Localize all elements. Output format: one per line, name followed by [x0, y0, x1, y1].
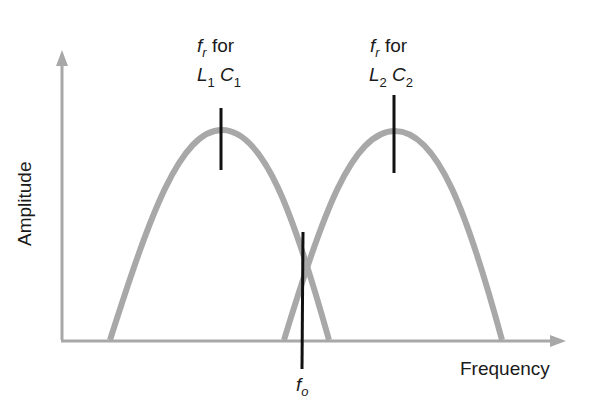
capacitor-symbol: C [220, 64, 234, 85]
inductor-subscript: 1 [208, 75, 215, 90]
for-text: for [385, 35, 407, 56]
right-peak-label-line2: L2 C2 [369, 65, 413, 84]
fo-label: fo [296, 375, 309, 394]
left-peak-label-line2: L1 C1 [197, 65, 241, 84]
capacitor-subscript: 1 [234, 75, 241, 90]
fr-subscript: r [202, 45, 206, 60]
inductor-symbol: L [197, 64, 208, 85]
left-peak-label-line1: fr for [197, 36, 234, 55]
right-peak-label-line1: fr for [370, 36, 407, 55]
fr-subscript: r [375, 45, 379, 60]
y-axis-arrow-icon [56, 50, 68, 66]
y-axis-label: Amplitude [14, 162, 35, 247]
fo-subscript: o [301, 384, 308, 399]
resonance-curves-diagram: Amplitude Frequency fr for L1 C1 fr for … [0, 0, 591, 415]
inductor-subscript: 2 [380, 75, 387, 90]
capacitor-symbol: C [392, 64, 406, 85]
x-axis-arrow-icon [550, 335, 566, 347]
y-axis-label-wrap: Amplitude [15, 162, 34, 247]
fo-marker [302, 232, 303, 369]
for-text: for [212, 35, 234, 56]
x-axis-label: Frequency [460, 359, 550, 378]
inductor-symbol: L [369, 64, 380, 85]
capacitor-subscript: 2 [406, 75, 413, 90]
diagram-canvas [0, 0, 591, 415]
